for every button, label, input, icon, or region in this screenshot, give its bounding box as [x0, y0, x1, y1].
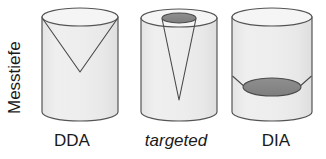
cylinder-body-dia [232, 17, 312, 121]
messtiefe-figure: Messtiefe DDA targeted [0, 0, 326, 159]
cylinder-top-dda [42, 8, 118, 26]
coverage-disc-dia [243, 78, 301, 96]
panel-label-targeted: targeted [145, 131, 208, 150]
panel-label-dia: DIA [262, 131, 291, 150]
panel-label-dda: DDA [54, 131, 91, 150]
coverage-disc-targeted [162, 13, 196, 23]
axis-label-text: Messtiefe [5, 41, 24, 114]
axis-label-messtiefe: Messtiefe [5, 41, 24, 114]
figure-canvas: Messtiefe DDA targeted [0, 0, 326, 159]
cylinder-top-dia [232, 8, 312, 26]
cylinder-body-targeted [141, 18, 217, 121]
cylinder-body-dda [42, 17, 118, 121]
